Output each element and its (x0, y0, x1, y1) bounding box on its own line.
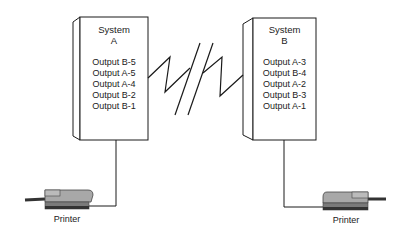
system-b-title-line1: System (253, 24, 316, 35)
printer-b-label: Printer (323, 215, 369, 226)
printer-b-connection (284, 140, 323, 207)
output-item: Output A-3 (253, 57, 316, 68)
communication-link-icon (148, 43, 243, 115)
system-a-title-line1: System (80, 24, 148, 35)
system-b-output-list: Output A-3 Output B-4 Output A-2 Output … (253, 57, 316, 112)
output-item: Output A-5 (80, 68, 148, 79)
printer-b-icon (323, 192, 386, 210)
output-item: Output B-2 (80, 90, 148, 101)
output-item: Output B-1 (80, 101, 148, 112)
system-a-side-face (73, 17, 80, 140)
system-a-title-line2: A (80, 35, 148, 46)
system-b-side-face (243, 18, 253, 140)
output-item: Output A-4 (80, 79, 148, 90)
output-item: Output B-5 (80, 57, 148, 68)
output-item: Output B-4 (253, 68, 316, 79)
system-a-output-list: Output B-5 Output A-5 Output A-4 Output … (80, 57, 148, 112)
output-item: Output A-1 (253, 101, 316, 112)
output-item: Output B-3 (253, 90, 316, 101)
printer-a-icon (25, 190, 93, 209)
diagram-canvas (0, 0, 405, 233)
printer-a-label: Printer (44, 214, 90, 225)
system-b-title: System B (253, 24, 316, 46)
system-a-title: System A (80, 24, 148, 46)
output-item: Output A-2 (253, 79, 316, 90)
system-b-title-line2: B (253, 35, 316, 46)
